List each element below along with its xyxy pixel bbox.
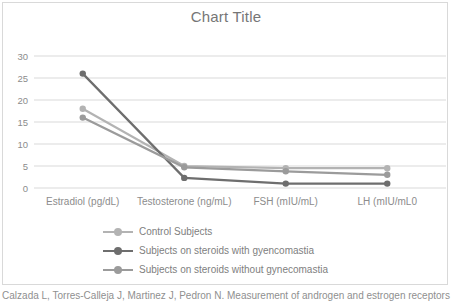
x-axis-label: Testosterone (ng/mL) — [137, 196, 232, 207]
legend-marker-without-gynecomastia-icon — [103, 269, 133, 271]
data-point-marker — [283, 180, 289, 186]
data-point-marker — [283, 168, 289, 174]
legend-marker-control-icon — [103, 231, 133, 233]
data-point-marker — [181, 164, 187, 170]
y-tick-label: 10 — [17, 139, 28, 150]
data-point-marker — [80, 70, 86, 76]
x-axis-label: Estradiol (pg/dL) — [46, 196, 119, 207]
legend-label-control: Control Subjects — [139, 226, 212, 237]
data-point-marker — [80, 106, 86, 112]
legend-marker-with-gynecomastia-icon — [103, 250, 133, 252]
y-tick-label: 15 — [17, 117, 28, 128]
data-point-marker — [384, 172, 390, 178]
y-tick-label: 30 — [17, 51, 28, 62]
citation-text: Calzada L, Torres-Calleja J, Martinez J,… — [0, 290, 452, 301]
x-axis-label: LH (mIU/mL0 — [358, 196, 418, 207]
y-tick-label: 20 — [17, 95, 28, 106]
y-tick-label: 5 — [23, 161, 28, 172]
y-tick-label: 0 — [23, 183, 28, 194]
legend-item-without-gynecomastia: Subjects on steroids without gynecomasti… — [103, 263, 328, 276]
x-axis-label: FSH (mIU/mL) — [254, 196, 318, 207]
series-line — [83, 109, 388, 168]
data-point-marker — [80, 114, 86, 120]
y-tick-label: 25 — [17, 73, 28, 84]
data-point-marker — [384, 180, 390, 186]
legend-item-with-gynecomastia: Subjects on steroids with gyencomastia — [103, 244, 328, 257]
legend-item-control: Control Subjects — [103, 225, 328, 238]
data-point-marker — [384, 165, 390, 171]
legend: Control Subjects Subjects on steroids wi… — [103, 225, 328, 276]
legend-label-with-gynecomastia: Subjects on steroids with gyencomastia — [139, 245, 314, 256]
legend-label-without-gynecomastia: Subjects on steroids without gynecomasti… — [139, 264, 328, 275]
data-point-marker — [181, 175, 187, 181]
